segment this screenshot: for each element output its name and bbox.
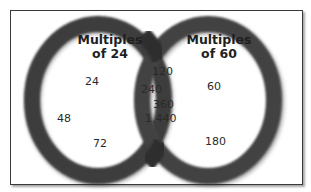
set-a-value: 72 bbox=[93, 138, 107, 149]
set-a-title: Multiples of 24 bbox=[75, 33, 145, 61]
set-b-value: 180 bbox=[205, 136, 226, 147]
set-a-title-line2: of 24 bbox=[75, 47, 145, 61]
set-a-title-line1: Multiples bbox=[75, 33, 145, 47]
intersection-value: 360 bbox=[153, 99, 174, 110]
intersection-value: 1,440 bbox=[145, 113, 177, 124]
intersection-value: 240 bbox=[141, 84, 162, 95]
intersection-value: 120 bbox=[152, 66, 173, 77]
set-b-title-line2: of 60 bbox=[184, 47, 254, 61]
set-b-title-line1: Multiples bbox=[184, 33, 254, 47]
set-b-value: 60 bbox=[207, 81, 221, 92]
set-a-value: 24 bbox=[85, 76, 99, 87]
set-b-title: Multiples of 60 bbox=[184, 33, 254, 61]
set-a-value: 48 bbox=[57, 113, 71, 124]
venn-diagram bbox=[0, 0, 311, 192]
